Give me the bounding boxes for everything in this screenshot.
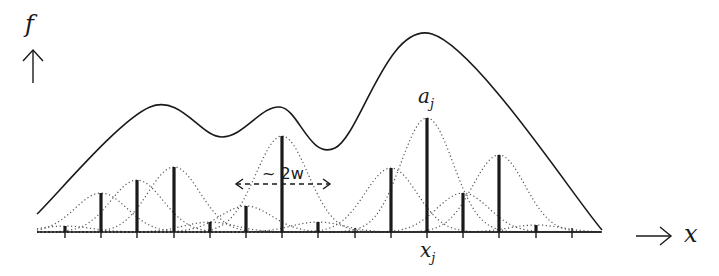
position-subscript: j (431, 250, 435, 265)
gaussian-kernel (37, 155, 601, 232)
dotted-gaussian-kernels (37, 118, 601, 232)
width-annotation: ~ 2w (262, 164, 304, 183)
kernel-sum-diagram (0, 0, 719, 276)
position-symbol: x (420, 238, 431, 262)
y-axis-label: f (25, 10, 34, 38)
amplitude-subscript: j (430, 96, 434, 111)
gaussian-kernel (37, 118, 601, 232)
position-label: xj (420, 238, 435, 265)
amplitude-symbol: a (418, 84, 430, 108)
x-axis-label: x (684, 220, 698, 248)
x-axis-arrow-icon (636, 227, 671, 245)
sum-curve (37, 33, 602, 230)
amplitude-label: aj (418, 84, 434, 111)
y-axis-arrow-icon (23, 50, 43, 83)
